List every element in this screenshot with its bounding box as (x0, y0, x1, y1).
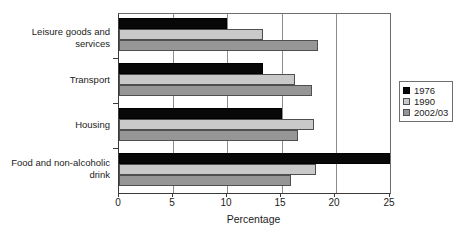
legend-item-2002-03: 2002/03 (403, 107, 448, 118)
category-axis-labels: Leisure goods and services Transport Hou… (0, 12, 114, 192)
x-axis-title: Percentage (118, 213, 389, 225)
legend-label-2002-03: 2002/03 (414, 107, 448, 118)
plot-area (118, 13, 391, 194)
category-label-housing: Housing (0, 119, 110, 131)
y-axis-tick-3 (113, 148, 118, 149)
y-axis-tick-1 (113, 58, 118, 59)
bar-leisure-1990 (119, 29, 263, 40)
bar-food-1976 (119, 153, 390, 164)
x-axis-label-10: 10 (211, 197, 241, 208)
x-axis-label-25: 25 (374, 197, 404, 208)
bar-transport-2002-03 (119, 85, 312, 96)
chart-legend: 1976 1990 2002/03 (399, 81, 453, 122)
bar-food-2002-03 (119, 175, 291, 186)
x-axis-label-20: 20 (319, 197, 349, 208)
category-label-leisure: Leisure goods and services (0, 26, 110, 49)
bar-transport-1976 (119, 63, 263, 74)
legend-item-1976: 1976 (403, 85, 448, 96)
legend-swatch-1976-icon (403, 87, 410, 94)
bar-groups (119, 14, 390, 193)
legend-swatch-2002-03-icon (403, 109, 410, 116)
legend-swatch-1990-icon (403, 98, 410, 105)
category-label-food: Food and non-alcoholic drink (0, 157, 110, 180)
category-label-transport: Transport (0, 74, 110, 86)
x-axis-label-0: 0 (103, 197, 133, 208)
bar-leisure-2002-03 (119, 40, 318, 51)
x-axis-label-5: 5 (157, 197, 187, 208)
bar-transport-1990 (119, 74, 295, 85)
legend-label-1976: 1976 (414, 85, 435, 96)
bar-leisure-1976 (119, 18, 227, 29)
bar-housing-1990 (119, 119, 314, 130)
bar-chart: Leisure goods and services Transport Hou… (0, 0, 467, 244)
x-axis-label-15: 15 (265, 197, 295, 208)
bar-housing-1976 (119, 108, 282, 119)
bar-housing-2002-03 (119, 130, 298, 141)
y-axis-tick-2 (113, 103, 118, 104)
legend-item-1990: 1990 (403, 96, 448, 107)
bar-food-1990 (119, 164, 316, 175)
legend-label-1990: 1990 (414, 96, 435, 107)
